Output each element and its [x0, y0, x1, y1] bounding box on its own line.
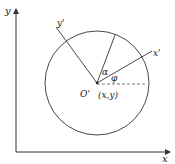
- x-prime-label: x': [153, 48, 161, 58]
- center-coordinates: (x,y): [98, 90, 119, 100]
- phi-label: φ: [111, 73, 118, 83]
- y-axis-label: y: [4, 5, 11, 16]
- x-axis-label: x: [162, 153, 168, 164]
- alpha-label: α: [102, 67, 108, 77]
- center-label: O': [80, 89, 90, 99]
- y-prime-label: y': [56, 18, 65, 28]
- center-point: [96, 82, 99, 85]
- coordinate-diagram: y x y' x' α φ O' (x,y): [0, 0, 175, 164]
